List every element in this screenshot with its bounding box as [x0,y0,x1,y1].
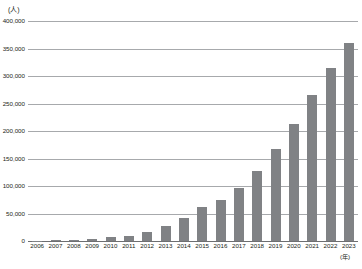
bar [271,149,281,241]
y-axis-tick-label: 350,000 [3,45,25,51]
bar [106,237,116,241]
y-axis-tick-label: 200,000 [3,128,25,134]
bar [234,188,244,241]
x-axis-tick-label: 2010 [104,243,118,249]
x-axis-tick-label: 2020 [287,243,301,249]
x-axis-unit-label: (年) [340,254,350,260]
bar [87,239,97,241]
x-axis-tick-label: 2023 [342,243,356,249]
x-axis-tick-label: 2021 [305,243,319,249]
bar [197,207,207,241]
x-axis-tick-label: 2012 [140,243,154,249]
x-axis-tick-label: 2008 [67,243,81,249]
x-axis-labels: 2006200720082009201020112012201320142015… [28,243,358,255]
bar [142,232,152,241]
bars [28,21,358,241]
bar [289,124,299,241]
y-axis-tick-label: 100,000 [3,183,25,189]
x-axis-tick-label: 2017 [232,243,246,249]
bar [124,236,134,242]
x-axis-tick-label: 2019 [269,243,283,249]
bar-chart: (人) 050,000100,000150,000200,000250,0003… [0,0,362,269]
bar [252,171,262,241]
y-axis-tick-label: 250,000 [3,100,25,106]
bar [344,43,354,241]
y-axis-tick-label: 300,000 [3,73,25,79]
bar [216,200,226,241]
x-axis-tick-label: 2015 [195,243,209,249]
bar [179,218,189,241]
plot-area: 050,000100,000150,000200,000250,000300,0… [28,21,358,241]
x-axis-tick-label: 2013 [159,243,173,249]
x-axis-tick-label: 2022 [324,243,338,249]
x-axis-tick-label: 2006 [30,243,44,249]
x-axis-tick-label: 2016 [214,243,228,249]
bar [51,240,61,241]
x-axis-tick-label: 2007 [49,243,63,249]
y-axis-tick-label: 150,000 [3,155,25,161]
y-axis-tick-label: 50,000 [6,210,25,216]
bar [161,226,171,241]
y-axis-unit-label: (人) [8,4,20,14]
x-axis-tick-label: 2009 [85,243,99,249]
x-axis-tick-label: 2014 [177,243,191,249]
bar [307,95,317,241]
y-axis-tick-label: 0 [22,238,25,244]
x-axis-tick-label: 2018 [250,243,264,249]
x-axis-tick-label: 2011 [122,243,135,249]
y-axis-tick-label: 400,000 [3,18,25,24]
bar [326,68,336,241]
bar [69,240,79,241]
